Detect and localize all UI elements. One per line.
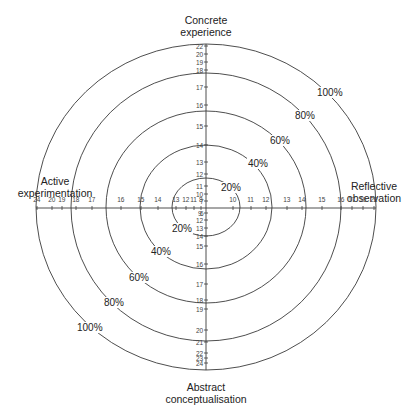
tick-label-horizontal: 13 [283, 196, 290, 203]
tick-label-vertical: 20 [196, 327, 203, 334]
tick-label-horizontal: 14 [298, 196, 305, 203]
tick-label-vertical: 12 [196, 171, 203, 178]
tick-label-vertical: 18 [196, 297, 203, 304]
tick-label-vertical: 21 [196, 339, 203, 346]
tick-label-vertical: 9 [198, 210, 202, 217]
pole-right-line1: Reflective [347, 180, 401, 192]
tick-label-horizontal: 15 [318, 196, 325, 203]
tick-label-horizontal: 8 [199, 196, 203, 203]
tick-label-horizontal: 15 [137, 196, 144, 203]
tick-label-vertical: 24 [196, 360, 203, 367]
tick-label-horizontal: 10 [229, 196, 236, 203]
tick-label-vertical: 17 [196, 281, 203, 288]
ring-label-100pct: 100% [316, 87, 344, 98]
tick-label-vertical: 19 [196, 306, 203, 313]
pole-label-abstract-conceptualisation: Abstract conceptualisation [165, 381, 246, 405]
tick-label-horizontal: 16 [117, 196, 124, 203]
ring-label-lower-100pct: 100% [76, 322, 104, 333]
tick-label-horizontal: 11 [247, 196, 254, 203]
tick-label-horizontal: 19 [359, 196, 366, 203]
tick-label-horizontal: 12 [262, 196, 269, 203]
ring-label-60pct: 60% [269, 135, 291, 146]
ring-label-20pct: 20% [220, 182, 242, 193]
tick-label-vertical: 13 [196, 225, 203, 232]
tick-label-horizontal: 20 [48, 196, 55, 203]
tick-label-vertical: 16 [196, 102, 203, 109]
diagram-canvas [0, 0, 413, 413]
ring-label-lower-60pct: 60% [128, 272, 150, 283]
tick-label-horizontal: 17 [348, 196, 355, 203]
pole-bottom-line2: conceptualisation [165, 393, 246, 405]
tick-label-horizontal: 24 [33, 196, 40, 203]
pole-top-line1: Concrete [180, 14, 231, 26]
pole-label-concrete-experience: Concrete experience [180, 14, 231, 38]
tick-label-vertical: 19 [196, 59, 203, 66]
ring-label-40pct: 40% [247, 158, 269, 169]
tick-label-horizontal: 12 [182, 196, 189, 203]
tick-label-vertical: 11 [196, 183, 203, 190]
pole-left-line1: Active [18, 175, 93, 187]
tick-label-horizontal: 11 [190, 196, 197, 203]
tick-label-vertical: 14 [196, 233, 203, 240]
learning-style-diagram: Concrete experience Reflective observati… [0, 0, 413, 413]
ring-label-lower-20pct: 20% [171, 223, 193, 234]
tick-label-vertical: 14 [196, 142, 203, 149]
tick-label-horizontal: 22 [370, 196, 377, 203]
pole-top-line2: experience [180, 26, 231, 38]
tick-label-vertical: 15 [196, 243, 203, 250]
tick-label-horizontal: 17 [88, 196, 95, 203]
tick-label-horizontal: 13 [172, 196, 179, 203]
tick-label-vertical: 12 [196, 217, 203, 224]
tick-label-horizontal: 14 [154, 196, 161, 203]
ring-label-lower-40pct: 40% [150, 246, 172, 257]
tick-label-vertical: 15 [196, 123, 203, 130]
pole-bottom-line1: Abstract [165, 381, 246, 393]
tick-label-vertical: 20 [196, 51, 203, 58]
tick-label-horizontal: 19 [58, 196, 65, 203]
ring-label-lower-80pct: 80% [103, 297, 125, 308]
tick-label-horizontal: 18 [72, 196, 79, 203]
tick-label-vertical: 16 [196, 261, 203, 268]
tick-label-vertical: 18 [196, 67, 203, 74]
tick-label-vertical: 22 [196, 43, 203, 50]
tick-label-horizontal: 16 [337, 196, 344, 203]
tick-label-vertical: 13 [196, 159, 203, 166]
ring-label-80pct: 80% [294, 110, 316, 121]
tick-label-vertical: 17 [196, 84, 203, 91]
